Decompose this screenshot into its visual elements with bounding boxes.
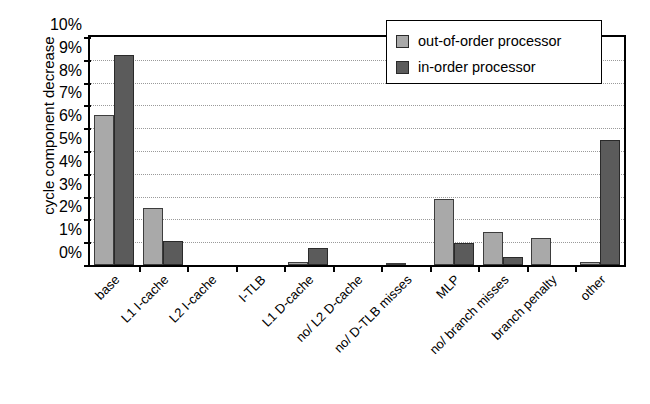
bar: [386, 263, 406, 265]
y-tick-mark: [84, 265, 91, 267]
x-tick-label: no/ branch misses: [421, 272, 511, 362]
x-tick-label: no/ L2 D-cache: [276, 272, 366, 362]
y-tick-mark: [84, 197, 91, 199]
y-tick-mark: [84, 60, 91, 62]
bar-group: [143, 37, 183, 265]
x-tick-label: L2 I-cache: [130, 272, 220, 362]
y-tick-mark: [84, 128, 91, 130]
y-tick-mark: [84, 242, 91, 244]
series-1-swatch: [396, 61, 409, 74]
chart-legend: out-of-order processorin-order processor: [386, 20, 602, 84]
bar: [483, 232, 503, 265]
y-axis-tick-labels: 0%1%2%3%4%5%6%7%8%9%10%: [36, 25, 82, 267]
y-tick-label: 1%: [59, 222, 82, 238]
bar: [454, 243, 474, 265]
x-tick-label: branch penalty: [470, 272, 560, 362]
y-tick-label: 3%: [59, 177, 82, 193]
series-0-swatch: [396, 35, 409, 48]
y-tick-label: 5%: [59, 131, 82, 147]
x-tick-label: no/ D-TLB misses: [324, 272, 414, 362]
bar: [288, 262, 308, 265]
x-tick-label: L1 D-cache: [227, 272, 317, 362]
bar: [580, 262, 600, 265]
bar: [600, 140, 620, 265]
y-tick-label: 0%: [59, 245, 82, 261]
y-tick-label: 2%: [59, 199, 82, 215]
bar: [503, 257, 523, 265]
y-tick-label: 10%: [50, 17, 82, 33]
bar: [143, 208, 163, 265]
bar-chart: cycle component decrease 0%1%2%3%4%5%6%7…: [0, 0, 650, 404]
y-tick-label: 9%: [59, 40, 82, 56]
y-tick-mark: [84, 37, 91, 39]
x-tick-label: other: [519, 272, 609, 362]
bar: [434, 199, 454, 265]
legend-item: in-order processor: [396, 54, 601, 80]
legend-label: out-of-order processor: [418, 33, 561, 49]
bar-group: [288, 37, 328, 265]
bar: [308, 248, 328, 265]
y-tick-mark: [84, 174, 91, 176]
y-tick-mark: [84, 83, 91, 85]
y-tick-mark: [84, 151, 91, 153]
bar-group: [240, 37, 280, 265]
bar: [94, 115, 114, 265]
x-tick-label: L1 I-cache: [82, 272, 172, 362]
x-axis-tick-labels: baseL1 I-cacheL2 I-cacheI-TLBL1 D-cachen…: [0, 268, 650, 404]
bar: [163, 241, 183, 265]
x-tick-label: MLP: [373, 272, 463, 362]
bar-group: [337, 37, 377, 265]
y-tick-label: 7%: [59, 85, 82, 101]
bar: [114, 55, 134, 265]
y-tick-label: 4%: [59, 154, 82, 170]
legend-label: in-order processor: [418, 59, 536, 75]
bar: [531, 238, 551, 265]
bar-group: [94, 37, 134, 265]
legend-item: out-of-order processor: [396, 28, 601, 54]
x-tick-label: base: [33, 272, 123, 362]
y-tick-label: 8%: [59, 63, 82, 79]
x-tick-label: I-TLB: [179, 272, 269, 362]
y-tick-mark: [84, 105, 91, 107]
y-tick-label: 6%: [59, 108, 82, 124]
bar-group: [191, 37, 231, 265]
y-tick-mark: [84, 219, 91, 221]
